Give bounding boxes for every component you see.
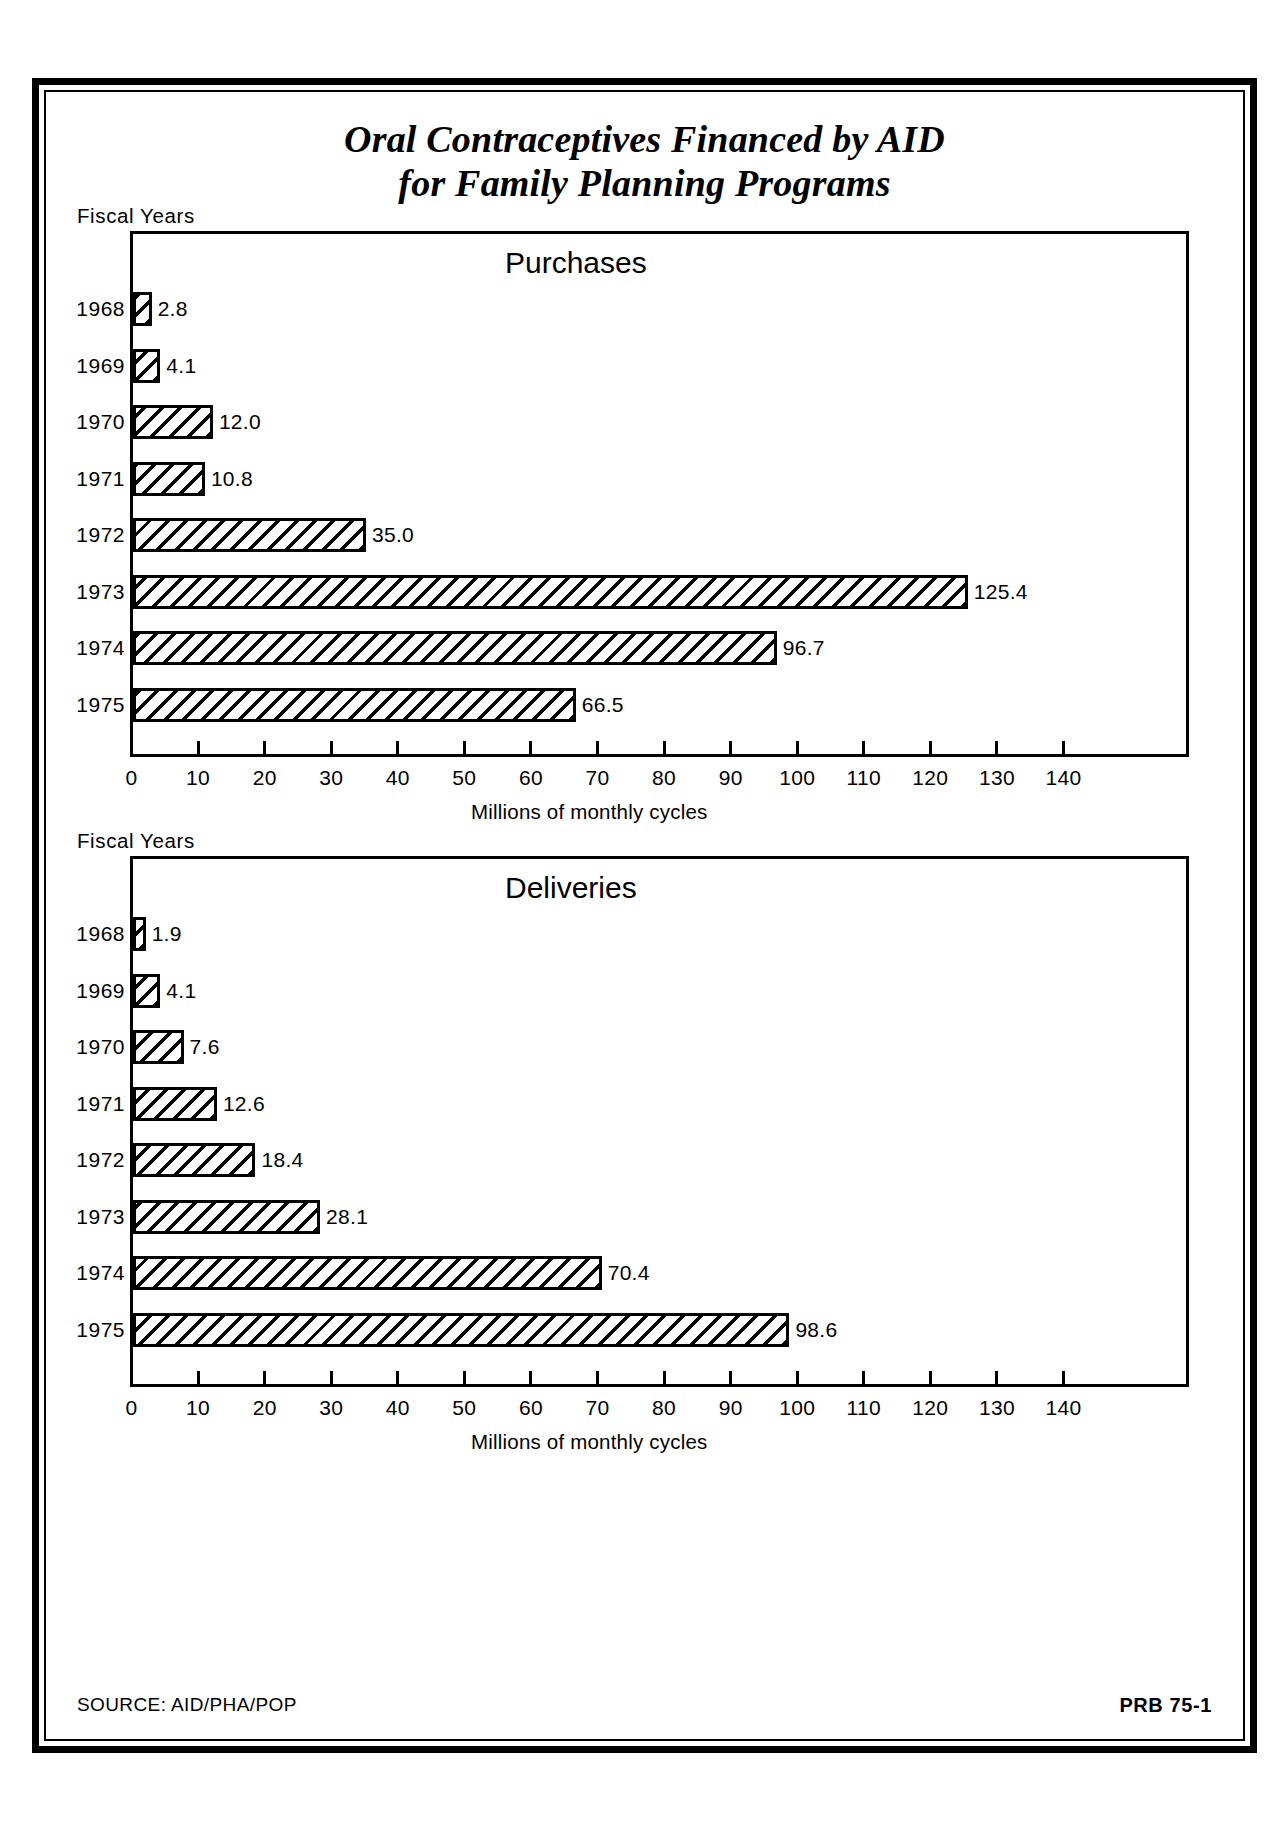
chart-title-deliveries: Deliveries [505, 871, 637, 905]
bar-category-label: 1975 [76, 1318, 125, 1342]
axis-tick [729, 741, 732, 754]
axis-tick-label: 100 [779, 766, 815, 790]
axis-tick-label: 40 [386, 1396, 410, 1420]
bar-row: 19694.1 [133, 349, 1192, 383]
bar-row: 197235.0 [133, 518, 1192, 552]
bar-row: 197470.4 [133, 1256, 1192, 1290]
title-line-1: Oral Contraceptives Financed by AID [46, 117, 1243, 161]
bar-row: 197496.7 [133, 631, 1192, 665]
bar: 19681.9 [133, 917, 146, 951]
axis-tick [529, 1371, 532, 1384]
bar-row: 197598.6 [133, 1313, 1192, 1347]
page-title: Oral Contraceptives Financed by AID for … [46, 117, 1243, 206]
axis-tick [596, 1371, 599, 1384]
axis-tick [330, 1371, 333, 1384]
bar-category-label: 1973 [76, 580, 125, 604]
bar: 197235.0 [133, 518, 366, 552]
axis-tick [796, 1371, 799, 1384]
bar-value-label: 10.8 [211, 467, 253, 491]
axis-tick [330, 741, 333, 754]
axis-tick [862, 1371, 865, 1384]
axis-tick [995, 1371, 998, 1384]
bar-value-label: 2.8 [158, 297, 188, 321]
axis-tick [396, 1371, 399, 1384]
bar: 197112.6 [133, 1087, 217, 1121]
axis-tick [529, 741, 532, 754]
axis-tick-label: 130 [979, 766, 1015, 790]
axis-tick-label: 50 [452, 1396, 476, 1420]
chart-title-purchases: Purchases [505, 246, 647, 280]
axis-tick-label: 130 [979, 1396, 1015, 1420]
bar: 19694.1 [133, 349, 160, 383]
bar: 197110.8 [133, 462, 205, 496]
bar-row: 19681.9 [133, 917, 1192, 951]
bar-category-label: 1974 [76, 636, 125, 660]
bar-value-label: 4.1 [166, 979, 196, 1003]
axis-tick-label: 110 [847, 1396, 881, 1420]
bar-value-label: 4.1 [166, 354, 196, 378]
bar-value-label: 66.5 [582, 693, 624, 717]
bar: 19707.6 [133, 1030, 184, 1064]
axis-tick [796, 741, 799, 754]
bar-value-label: 7.6 [190, 1035, 220, 1059]
axis-tick-label: 70 [586, 1396, 610, 1420]
axis-tick-label: 100 [779, 1396, 815, 1420]
axis-tick-label: 30 [319, 766, 343, 790]
bar-row: 197012.0 [133, 405, 1192, 439]
bar-row: 197566.5 [133, 688, 1192, 722]
axis-tick [663, 741, 666, 754]
bar-row: 19694.1 [133, 974, 1192, 1008]
x-axis-caption-deliveries: Millions of monthly cycles [471, 1430, 707, 1454]
bar-category-label: 1970 [76, 1035, 125, 1059]
axis-tick [263, 1371, 266, 1384]
bar-category-label: 1968 [76, 922, 125, 946]
axis-tick-label: 90 [719, 1396, 743, 1420]
axis-tick [729, 1371, 732, 1384]
axis-tick [463, 741, 466, 754]
bar-value-label: 1.9 [152, 922, 182, 946]
axis-tick [1062, 741, 1065, 754]
bar-category-label: 1971 [76, 1092, 125, 1116]
axis-tick [197, 741, 200, 754]
chart-panel-deliveries: Fiscal Years Deliveries 19681.919694.119… [46, 829, 1256, 1519]
publication-code: PRB 75-1 [1119, 1694, 1212, 1717]
bar-row: 1973125.4 [133, 575, 1192, 609]
bar-row: 19682.8 [133, 292, 1192, 326]
axis-tick-label: 50 [452, 766, 476, 790]
bar-value-label: 12.0 [219, 410, 261, 434]
axis-tick-label: 120 [912, 1396, 948, 1420]
bar-value-label: 96.7 [783, 636, 825, 660]
axis-tick-label: 80 [652, 1396, 676, 1420]
bar-value-label: 28.1 [326, 1205, 368, 1229]
axis-tick-label: 10 [186, 766, 210, 790]
bar: 197012.0 [133, 405, 213, 439]
axis-tick [396, 741, 399, 754]
axis-tick [1062, 1371, 1065, 1384]
axis-tick-label: 30 [319, 1396, 343, 1420]
axis-tick-label: 80 [652, 766, 676, 790]
bar-category-label: 1972 [76, 523, 125, 547]
axis-tick [929, 741, 932, 754]
axis-tick-label: 110 [847, 766, 881, 790]
bar-row: 197110.8 [133, 462, 1192, 496]
fiscal-years-label-purchases: Fiscal Years [77, 204, 195, 228]
axis-tick-label: 60 [519, 766, 543, 790]
plot-area-deliveries: Deliveries 19681.919694.119707.6197112.6… [130, 856, 1189, 1384]
axis-tick [929, 1371, 932, 1384]
axis-tick-label: 60 [519, 1396, 543, 1420]
bar-category-label: 1971 [76, 467, 125, 491]
bar-row: 197328.1 [133, 1200, 1192, 1234]
poster-inner-border: Oral Contraceptives Financed by AID for … [44, 90, 1245, 1741]
plot-area-purchases: Purchases 19682.819694.1197012.0197110.8… [130, 231, 1189, 754]
bar-value-label: 125.4 [974, 580, 1028, 604]
bar: 19694.1 [133, 974, 160, 1008]
axis-tick-label: 140 [1046, 766, 1082, 790]
axis-tick-label: 90 [719, 766, 743, 790]
axis-tick [197, 1371, 200, 1384]
bar-category-label: 1969 [76, 354, 125, 378]
bar: 1973125.4 [133, 575, 968, 609]
axis-tick-label: 20 [253, 766, 277, 790]
axis-tick [463, 1371, 466, 1384]
axis-tick-label: 140 [1046, 1396, 1082, 1420]
bar: 19682.8 [133, 292, 152, 326]
